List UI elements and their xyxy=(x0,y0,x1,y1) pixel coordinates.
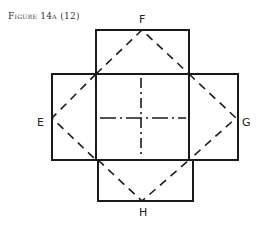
center-cross xyxy=(100,78,186,155)
top-flap-f xyxy=(96,30,189,74)
label-g: G xyxy=(242,116,251,129)
dashed-folds xyxy=(52,30,236,201)
bottom-flap-h xyxy=(98,160,193,201)
fold-g xyxy=(189,74,236,160)
label-f: F xyxy=(139,13,145,26)
box-net-diagram: F E G H xyxy=(0,0,266,232)
label-h: H xyxy=(139,206,147,219)
fold-e xyxy=(52,74,96,160)
middle-row xyxy=(52,74,238,160)
fold-f xyxy=(96,30,189,74)
label-e: E xyxy=(37,116,44,129)
fold-h xyxy=(98,160,189,201)
solid-outlines xyxy=(52,30,238,201)
